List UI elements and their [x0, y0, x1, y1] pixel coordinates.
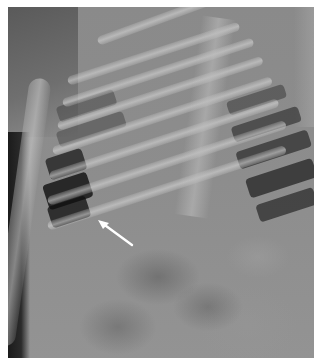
radiograph-image: [8, 7, 314, 358]
arrow-annotation-icon: [96, 219, 136, 247]
